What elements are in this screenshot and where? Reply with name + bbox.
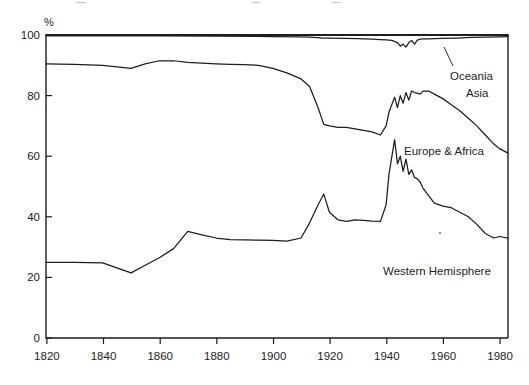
axis-frame [46,35,508,338]
y-tick-label-80: 80 [27,90,40,102]
chart-canvas: % 100 80 60 40 20 0 [0,0,529,385]
y-tick-label-0: 0 [34,332,40,344]
y-tick-label-60: 60 [27,150,40,162]
series-path-europe-africa-cumulative-upper-bound [46,61,508,153]
y-tick-label-40: 40 [27,211,40,223]
series-path-asia-cumulative-upper-bound-oceania-boundary [46,36,508,47]
oceania-leader-line [444,47,453,66]
x-tick-label-1980: 1980 [487,350,513,362]
y-axis-tick-labels: 100 80 60 40 20 0 [21,29,40,344]
y-axis-ticks [46,35,52,338]
y-tick-label-100: 100 [21,29,40,41]
x-tick-label-1820: 1820 [34,350,60,362]
series-label-oceania: Oceania [450,70,493,82]
y-axis-unit-label: % [44,16,54,28]
series-label-western-hemisphere: Western Hemisphere [383,265,491,277]
x-tick-label-1900: 1900 [261,350,287,362]
y-tick-label-20: 20 [27,271,40,283]
x-axis-ticks [47,338,500,344]
page-crop-marks [76,2,341,3]
x-axis-tick-labels: 1820 1840 1860 1880 1900 1920 1940 1960 … [34,350,513,362]
x-tick-label-1880: 1880 [204,350,230,362]
x-tick-label-1860: 1860 [147,350,173,362]
chart-figure: % 100 80 60 40 20 0 [0,0,529,385]
x-tick-label-1840: 1840 [91,350,117,362]
series-path-western-hemisphere [46,140,508,273]
series-label-europe-africa: Europe & Africa [404,145,485,157]
x-tick-label-1940: 1940 [374,350,400,362]
series-label-asia: Asia [466,87,489,99]
x-tick-label-1960: 1960 [431,350,457,362]
ink-speck [439,232,441,234]
x-tick-label-1920: 1920 [317,350,343,362]
